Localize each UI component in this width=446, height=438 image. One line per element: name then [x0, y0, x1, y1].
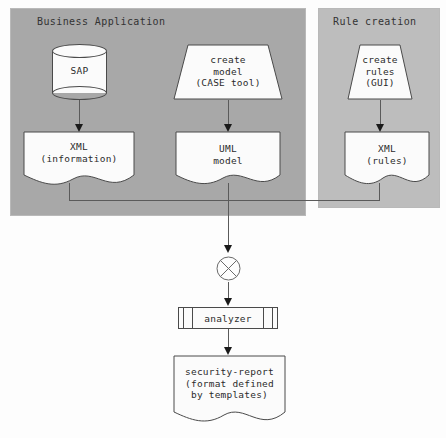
node-analyzer[interactable]: analyzer: [178, 307, 278, 329]
container-business-application-title: Business Application: [37, 16, 165, 27]
edge-merge-bus-rail: [69, 200, 380, 201]
node-uml-model[interactable]: UML model: [175, 131, 281, 187]
node-sap[interactable]: SAP: [52, 44, 107, 100]
edge-xml-information-to-bus: [69, 183, 70, 201]
node-create-rules[interactable]: create rules (GUI): [347, 44, 413, 100]
cylinder-top-ellipse: [52, 44, 107, 58]
node-security-report[interactable]: security-report (format defined by templ…: [173, 355, 286, 427]
xml-rules-document-shape: [344, 131, 430, 187]
cylinder-bottom-ellipse: [52, 86, 107, 100]
node-xml-rules[interactable]: XML (rules): [344, 131, 430, 187]
container-rule-creation-title: Rule creation: [333, 16, 416, 27]
create-rules-trapezoid-shape: [347, 44, 413, 100]
create-model-trapezoid-shape: [173, 44, 283, 100]
crossed-circle-icon: [215, 255, 242, 282]
diagram-canvas: Business Application Rule creation SAP c…: [0, 0, 446, 438]
node-xml-information[interactable]: XML (information): [23, 131, 135, 187]
analyzer-right-tab: [263, 307, 273, 329]
security-report-document-shape: [173, 355, 286, 427]
arrowhead-analyzer-to-security-report: [224, 347, 232, 355]
edge-xml-rules-to-bus: [379, 183, 380, 201]
edge-bus-to-merge-node: [228, 183, 229, 250]
arrowhead-merge-to-analyzer: [224, 298, 232, 306]
node-create-model[interactable]: create model (CASE tool): [173, 44, 283, 100]
analyzer-left-tab: [183, 307, 193, 329]
arrowhead-bus-to-merge-node: [224, 245, 232, 253]
xml-information-document-shape: [23, 131, 135, 187]
node-merge-crossed-circle[interactable]: [215, 255, 242, 282]
uml-model-document-shape: [175, 131, 281, 187]
